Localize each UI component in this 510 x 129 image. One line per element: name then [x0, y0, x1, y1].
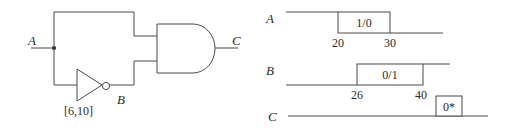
- signal-b-label: B: [117, 92, 125, 107]
- timing-a-time-end: 30: [384, 36, 396, 50]
- timing-signal-a: A 1/0 20 30: [265, 11, 443, 50]
- timing-signal-c: C 0*: [268, 96, 488, 124]
- timing-b-box-label: 0/1: [382, 68, 397, 82]
- input-a-label: A: [27, 33, 36, 48]
- timing-b-time-start: 26: [351, 88, 363, 102]
- timing-signal-b: B 0/1 26 40: [266, 63, 450, 102]
- a-to-and-wire: [54, 12, 157, 36]
- b-to-and-wire: [110, 61, 157, 85]
- timing-a-time-start: 20: [332, 36, 344, 50]
- circuit-schematic: A B C [6,10]: [27, 12, 241, 118]
- output-c-label: C: [232, 33, 241, 48]
- timing-b-time-end: 40: [415, 88, 427, 102]
- timing-a-label: A: [265, 11, 274, 26]
- timing-c-box-label: 0*: [443, 100, 455, 114]
- inverter-delay-label: [6,10]: [64, 104, 93, 118]
- timing-diagram: A 1/0 20 30 B 0/1 26 40 C: [265, 11, 488, 124]
- diagram-canvas: A B C [6,10] A 1/0 20 30 B 0: [0, 0, 510, 129]
- timing-b-label: B: [266, 63, 274, 78]
- timing-a-box-label: 1/0: [356, 16, 371, 30]
- timing-c-label: C: [268, 109, 277, 124]
- inverter-gate-icon: [77, 69, 102, 101]
- and-gate-icon: [157, 24, 215, 73]
- inverter-bubble-icon: [102, 82, 109, 89]
